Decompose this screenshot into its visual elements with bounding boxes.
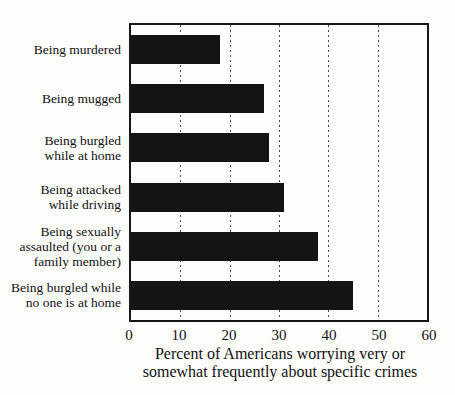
bar-5 xyxy=(131,281,353,310)
bar-0 xyxy=(131,35,220,64)
x-tick-label-0: 0 xyxy=(114,327,144,344)
x-tick-label-10: 10 xyxy=(164,327,194,344)
x-axis-title-line: Percent of Americans worrying very or xyxy=(115,345,445,363)
bar-1 xyxy=(131,84,264,113)
category-label-line: assaulted (you or a xyxy=(19,239,121,254)
x-tick-label-40: 40 xyxy=(314,327,344,344)
category-label-3: Being attackedwhile driving xyxy=(0,173,125,222)
category-label-4: Being sexuallyassaulted (you or afamily … xyxy=(0,222,125,271)
category-label-line: Being sexually xyxy=(40,224,121,239)
bar-chart: Being murderedBeing muggedBeing burgledw… xyxy=(0,0,455,395)
bar-4 xyxy=(131,232,318,261)
x-tick-label-60: 60 xyxy=(414,327,444,344)
category-label-2: Being burgledwhile at home xyxy=(0,123,125,172)
plot-area xyxy=(129,23,429,322)
category-label-line: Being burgled xyxy=(44,133,121,148)
category-label-line: no one is at home xyxy=(26,295,121,310)
x-axis-tick-labels: 0102030405060 xyxy=(0,327,455,345)
x-tick-label-50: 50 xyxy=(364,327,394,344)
category-axis-labels: Being murderedBeing muggedBeing burgledw… xyxy=(0,23,125,322)
gridline-x-30 xyxy=(279,25,280,320)
category-label-line: while driving xyxy=(49,197,121,212)
x-tick-label-20: 20 xyxy=(214,327,244,344)
gridline-x-10 xyxy=(180,25,181,320)
category-label-line: while at home xyxy=(45,148,121,163)
x-axis-title: Percent of Americans worrying very orsom… xyxy=(115,345,445,380)
category-label-line: family member) xyxy=(34,254,121,269)
bar-2 xyxy=(131,133,269,162)
x-tick-label-30: 30 xyxy=(264,327,294,344)
gridline-x-40 xyxy=(328,25,329,320)
bar-3 xyxy=(131,183,284,212)
category-label-line: Being mugged xyxy=(42,91,121,106)
gridline-x-20 xyxy=(230,25,231,320)
category-label-line: Being murdered xyxy=(34,42,121,57)
category-label-line: Being burgled while xyxy=(11,280,121,295)
gridline-x-50 xyxy=(378,25,379,320)
category-label-1: Being mugged xyxy=(0,74,125,123)
x-axis-title-line: somewhat frequently about specific crime… xyxy=(115,363,445,381)
category-label-5: Being burgled whileno one is at home xyxy=(0,271,125,320)
category-label-line: Being attacked xyxy=(40,182,121,197)
category-label-0: Being murdered xyxy=(0,25,125,74)
